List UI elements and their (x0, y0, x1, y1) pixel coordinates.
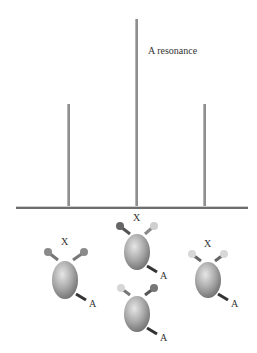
molecule-right (188, 250, 228, 300)
x-label-right: X (204, 238, 211, 249)
molecule-illustrations (0, 0, 257, 353)
x-label-center-top: X (133, 212, 140, 223)
a-label-right: A (231, 298, 238, 309)
molecule-center-bottom (117, 284, 158, 334)
x-label-left: X (61, 236, 68, 247)
a-label-left: A (89, 298, 96, 309)
a-label-center-bottom: A (160, 332, 167, 343)
molecule-left (44, 248, 88, 300)
a-label-center-top: A (160, 270, 167, 281)
molecule-center-top (116, 222, 158, 272)
